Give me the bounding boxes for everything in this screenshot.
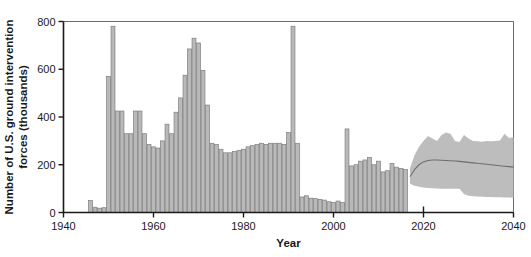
bar	[345, 129, 349, 213]
bar	[206, 105, 210, 212]
bar	[210, 143, 214, 212]
bar	[201, 70, 205, 212]
bar	[399, 168, 403, 212]
bar	[273, 143, 277, 212]
bars-group	[89, 26, 408, 212]
x-tick-label: 2000	[321, 220, 345, 232]
bar	[264, 144, 268, 212]
bar	[192, 38, 196, 212]
bar	[314, 199, 318, 213]
bar	[278, 143, 282, 212]
bar	[381, 172, 385, 213]
bar	[305, 196, 309, 213]
bar	[165, 124, 169, 212]
bar	[170, 134, 174, 213]
bar	[377, 161, 381, 212]
bar	[125, 134, 129, 213]
bar	[215, 144, 219, 212]
y-axis-title-line1: Number of U.S. ground intervention	[3, 20, 15, 215]
bar	[120, 111, 124, 212]
bar	[161, 141, 165, 213]
x-tick-label: 1940	[51, 220, 75, 232]
bar	[386, 171, 390, 213]
bar	[183, 75, 187, 212]
y-tick-label: 600	[37, 63, 55, 75]
bar	[219, 149, 223, 212]
bar	[89, 201, 93, 213]
bar	[359, 161, 363, 212]
bar	[116, 111, 120, 212]
y-tick-label: 800	[37, 16, 55, 28]
bar	[237, 150, 241, 212]
bar	[309, 198, 313, 212]
y-axis-title-line2: forces (thousands)	[17, 65, 29, 169]
y-tick-label: 400	[37, 111, 55, 123]
bar	[336, 201, 340, 212]
bar	[134, 111, 138, 212]
bar	[228, 153, 232, 213]
bar	[327, 202, 331, 213]
bar	[368, 158, 372, 213]
bar	[323, 200, 327, 212]
bar	[197, 43, 201, 213]
bar	[224, 153, 228, 213]
bar	[395, 167, 399, 212]
bar	[282, 144, 286, 212]
bar	[174, 112, 178, 212]
x-axis-title: Year	[276, 237, 301, 249]
x-tick-label: 2040	[501, 220, 525, 232]
bar	[233, 152, 237, 213]
bar	[107, 76, 111, 212]
x-tick-label: 1960	[141, 220, 165, 232]
bar	[291, 26, 295, 212]
y-axis-title: Number of U.S. ground interventionforces…	[3, 20, 29, 215]
bar	[138, 111, 142, 212]
bar	[152, 147, 156, 213]
bar	[296, 143, 300, 212]
y-tick-label: 0	[49, 207, 55, 219]
bar	[147, 144, 151, 212]
bar	[318, 199, 322, 212]
bar	[251, 146, 255, 213]
bar	[111, 26, 115, 212]
bar	[332, 202, 336, 212]
bar	[300, 197, 304, 213]
bar	[156, 148, 160, 212]
bar	[287, 133, 291, 213]
bar	[390, 164, 394, 213]
bar	[255, 144, 259, 212]
bar	[404, 170, 408, 213]
ground-forces-chart: 0200400600800194019601980200020202040Yea…	[0, 0, 531, 257]
y-tick-label: 200	[37, 159, 55, 171]
bar	[363, 160, 367, 213]
chart-figure: 0200400600800194019601980200020202040Yea…	[0, 0, 531, 257]
x-tick-label: 2020	[411, 220, 435, 232]
bar	[143, 134, 147, 213]
bar	[242, 149, 246, 212]
bar	[341, 202, 345, 212]
bar	[260, 143, 264, 212]
bar	[372, 165, 376, 213]
bar	[350, 166, 354, 213]
bar	[188, 49, 192, 213]
bar	[129, 134, 133, 213]
bar	[246, 147, 250, 213]
bar	[179, 98, 183, 213]
x-tick-label: 1980	[231, 220, 255, 232]
bar	[269, 143, 273, 212]
bar	[354, 165, 358, 213]
